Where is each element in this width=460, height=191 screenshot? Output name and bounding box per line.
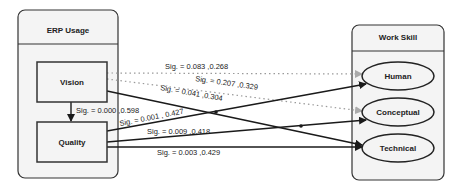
crossing-dot — [214, 110, 218, 114]
erp-usage-title: ERP Usage — [47, 26, 90, 35]
diagram-canvas: ERP Usage Work Skill Vision Quality Huma… — [0, 0, 460, 191]
node-technical-label: Technical — [380, 144, 416, 153]
node-vision-label: Vision — [60, 78, 84, 87]
label-vision-quality: Sig. = 0.000 ,0.598 — [76, 106, 139, 115]
node-human[interactable]: Human — [362, 62, 434, 90]
node-quality[interactable]: Quality — [37, 122, 107, 162]
edge-vision-human — [107, 73, 362, 74]
node-conceptual[interactable]: Conceptual — [362, 98, 434, 126]
label-quality-technical: Sig. = 0.003 ,0.429 — [157, 148, 220, 157]
label-quality-conceptual: Sig. = 0.009 ,0.418 — [147, 127, 210, 136]
node-human-label: Human — [384, 72, 411, 81]
node-technical[interactable]: Technical — [362, 134, 434, 162]
label-vision-conceptual: Sig. = 0.207 ,0.329 — [195, 74, 259, 92]
work-skill-title: Work Skill — [379, 33, 418, 42]
label-vision-human: Sig. = 0.083 ,0.268 — [165, 62, 228, 71]
node-quality-label: Quality — [58, 138, 86, 147]
node-vision[interactable]: Vision — [37, 62, 107, 102]
crossing-dot — [299, 124, 303, 128]
label-vision-technical: Sig. = 0.041 ,0.304 — [160, 83, 224, 103]
node-conceptual-label: Conceptual — [376, 108, 420, 117]
